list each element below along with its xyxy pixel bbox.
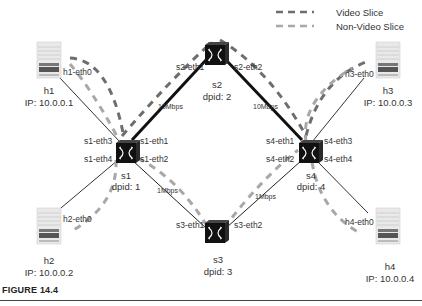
h1-ip: IP: 10.0.0.1 [25, 98, 74, 108]
s1-eth4-label: s1-eth4 [84, 155, 112, 164]
h2-ip: IP: 10.0.0.2 [25, 268, 74, 278]
switch-s3-icon[interactable] [205, 220, 229, 243]
link-s1-s3[interactable] [132, 160, 206, 228]
h3-iface-label: h3-eth0 [345, 70, 374, 79]
s2-name: s2 [212, 80, 222, 90]
bandwidth-s3-s4: 1Mbps [255, 193, 276, 200]
h2-name: h2 [44, 256, 55, 266]
s1-eth1-label: s1-eth1 [140, 137, 168, 146]
host-h4-icon[interactable] [376, 208, 400, 244]
s1-name: s1 [121, 171, 131, 181]
s4-name: s4 [306, 171, 316, 181]
h1-name: h1 [44, 86, 55, 96]
s3-eth2-label: s3-eth2 [234, 221, 262, 230]
s2-dpid: dpid: 2 [203, 92, 232, 102]
host-h2-icon[interactable] [37, 208, 61, 244]
host-h3-icon[interactable] [376, 42, 400, 78]
link-h1-s1 [60, 78, 120, 142]
figure-caption: FIGURE 14.4 [2, 285, 58, 295]
bandwidth-s1-s2: 10Mbps [158, 103, 183, 110]
network-topology-diagram [0, 0, 422, 306]
h3-name: h3 [383, 86, 394, 96]
link-h2-s1 [55, 160, 118, 213]
s1-eth2-label: s1-eth2 [140, 155, 168, 164]
s3-eth1-label: s3-eth1 [176, 221, 204, 230]
s4-dpid: dpid: 4 [297, 182, 326, 192]
link-h3-s4 [312, 78, 364, 142]
s1-dpid: dpid: 1 [112, 182, 141, 192]
s4-eth4-label: s4-eth4 [324, 155, 352, 164]
legend-label-nonvideo: Non-Video Slice [336, 21, 404, 32]
h4-ip: IP: 10.0.0.4 [366, 274, 415, 284]
bandwidth-s2-s4: 10Mbps [253, 103, 278, 110]
s2-eth1-label: s2-eth1 [176, 63, 204, 72]
link-s1-s2[interactable] [132, 60, 206, 140]
s2-eth2-label: s2-eth2 [234, 63, 262, 72]
s4-eth2-label: s4-eth2 [266, 155, 294, 164]
switch-s1-icon[interactable] [116, 140, 140, 163]
s1-eth3-label: s1-eth3 [84, 137, 112, 146]
bandwidth-s1-s3: 1Mbps [157, 187, 178, 194]
h4-name: h4 [385, 262, 396, 272]
s4-eth1-label: s4-eth1 [266, 137, 294, 146]
h4-iface-label: h4-eth0 [345, 218, 374, 227]
caption-divider [0, 300, 422, 301]
link-s2-s4[interactable] [226, 60, 302, 140]
switch-s2-icon[interactable] [205, 42, 229, 65]
h3-ip: IP: 10.0.0.3 [364, 98, 413, 108]
legend-label-video: Video Slice [336, 7, 383, 18]
h2-iface-label: h2-eth0 [63, 215, 92, 224]
s3-name: s3 [213, 255, 223, 265]
s4-eth3-label: s4-eth3 [324, 137, 352, 146]
legend [276, 12, 314, 26]
switch-s4-icon[interactable] [299, 140, 323, 163]
host-h1-icon[interactable] [37, 42, 61, 78]
h1-iface-label: h1-eth0 [63, 68, 92, 77]
s3-dpid: dpid: 3 [204, 267, 233, 277]
